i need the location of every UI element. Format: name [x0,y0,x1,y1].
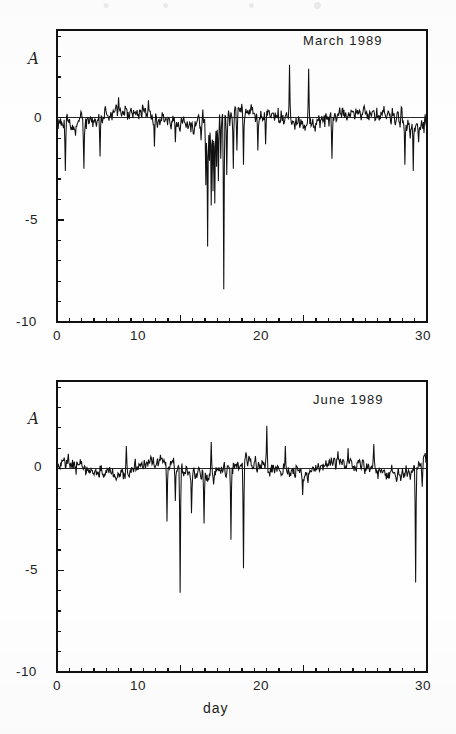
x-tick-label-30-june: 30 [415,678,431,693]
march-plot-canvas [0,0,456,370]
x-tick-label-10-march: 10 [130,328,146,343]
y-axis-label-june: A [28,410,39,429]
y-tick-label-minus5-june: -5 [25,562,38,577]
y-tick-label-0-march: 0 [34,110,42,125]
series-title-march: March 1989 [303,33,383,48]
y-tick-label-minus10-june: -10 [16,664,37,679]
figure-page: A March 1989 0 -5 -10 0 10 20 30 A June … [0,0,456,734]
data-trace [57,65,427,290]
x-tick-label-30-march: 30 [415,328,431,343]
x-tick-label-20-march: 20 [253,328,269,343]
y-axis-label-march: A [28,50,39,69]
x-tick-label-20-june: 20 [253,678,269,693]
x-axis-title-june: day [203,700,229,716]
chart-panel-march: A March 1989 0 -5 -10 0 10 20 30 [0,0,456,370]
series-title-june: June 1989 [313,392,384,407]
plot-frame [57,381,427,672]
y-tick-label-0-june: 0 [34,459,42,474]
plot-frame [57,30,427,322]
june-plot-canvas [0,370,456,734]
x-tick-label-10-june: 10 [130,678,146,693]
x-tick-label-0-june: 0 [53,678,61,693]
y-tick-label-minus10-march: -10 [16,314,37,329]
data-trace [57,426,427,593]
x-tick-label-0-march: 0 [53,328,61,343]
y-tick-label-minus5-march: -5 [25,212,38,227]
chart-panel-june: A June 1989 0 -5 -10 0 10 20 30 day [0,370,456,734]
